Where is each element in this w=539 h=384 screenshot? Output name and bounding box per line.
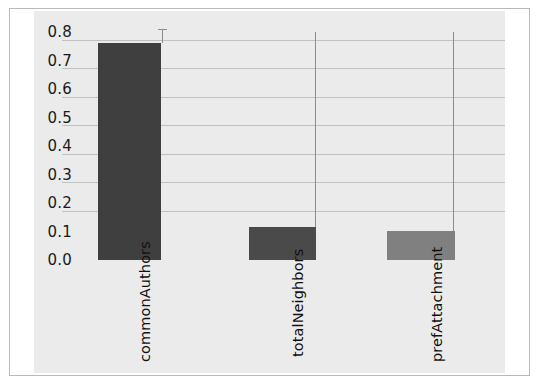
error-bar-prefAttachment	[453, 32, 454, 242]
x-tick-label-totalNeighbors: totalNeighbors	[290, 249, 306, 357]
bar-commonAuthors[interactable]	[98, 43, 161, 260]
error-bar-commonAuthors	[162, 29, 163, 43]
error-bar-totalNeighbors	[315, 32, 316, 238]
error-bar-cap-commonAuthors	[158, 29, 167, 30]
x-tick-label-commonAuthors: commonAuthors	[137, 241, 153, 362]
chart-figure: 0.8 0.7 0.6 0.5 0.4 0.3 0.2 0.1 0.0 comm…	[0, 0, 539, 384]
x-tick-label-prefAttachment: prefAttachment	[429, 247, 445, 362]
gridline-0.7	[62, 40, 505, 41]
